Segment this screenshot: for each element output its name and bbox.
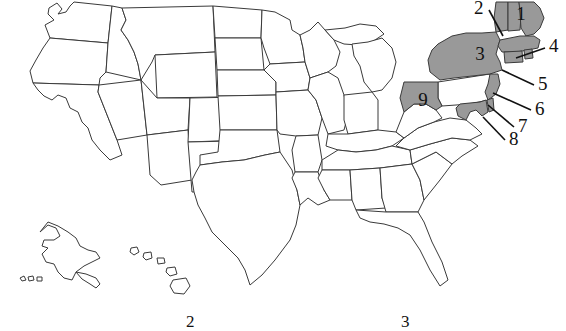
state-north-dakota <box>213 6 262 38</box>
callout-label-5: 5 <box>538 74 548 93</box>
page-number-right: 3 <box>401 312 410 331</box>
inset-hawaii-oahu <box>143 252 152 260</box>
state-indiana <box>344 92 378 134</box>
state-vermont-shaded <box>494 2 508 32</box>
state-number-9: 9 <box>418 89 428 110</box>
callout-label-2: 2 <box>474 0 484 17</box>
map-insets-group <box>20 222 190 294</box>
state-minnesota <box>261 10 305 64</box>
state-massachusetts-shaded <box>498 36 540 52</box>
state-new-york-shaded <box>428 32 502 80</box>
inset-alaska-aleutians <box>20 276 42 281</box>
state-wyoming <box>155 52 217 98</box>
state-kansas <box>218 95 277 130</box>
inset-hawaii-kauai <box>130 247 139 255</box>
inset-hawaii-molokai <box>157 258 165 264</box>
state-arizona <box>147 130 192 185</box>
callout-label-8: 8 <box>509 129 519 148</box>
inset-hawaii-maui <box>166 267 177 276</box>
callout-label-4: 4 <box>549 36 559 55</box>
inset-alaska-tail <box>76 272 100 288</box>
leader-line-5 <box>502 70 534 85</box>
unshaded-states-group <box>30 2 494 286</box>
leader-line-7 <box>488 105 514 127</box>
state-washington <box>45 2 112 43</box>
state-arkansas <box>292 135 322 172</box>
page-number-left: 2 <box>186 312 195 331</box>
state-south-dakota <box>215 38 264 70</box>
inset-hawaii-bigisland <box>170 278 190 294</box>
state-oregon <box>30 38 108 85</box>
leader-line-8 <box>483 117 505 140</box>
inset-alaska <box>40 222 100 280</box>
state-number-3: 3 <box>475 43 485 64</box>
state-florida <box>356 210 448 286</box>
callout-label-7: 7 <box>518 116 528 135</box>
state-michigan-lower <box>352 38 396 92</box>
state-nebraska <box>217 70 276 96</box>
state-number-1: 1 <box>516 3 526 24</box>
callout-label-6: 6 <box>535 99 545 118</box>
leader-line-6 <box>493 93 531 110</box>
state-texas <box>192 152 300 285</box>
